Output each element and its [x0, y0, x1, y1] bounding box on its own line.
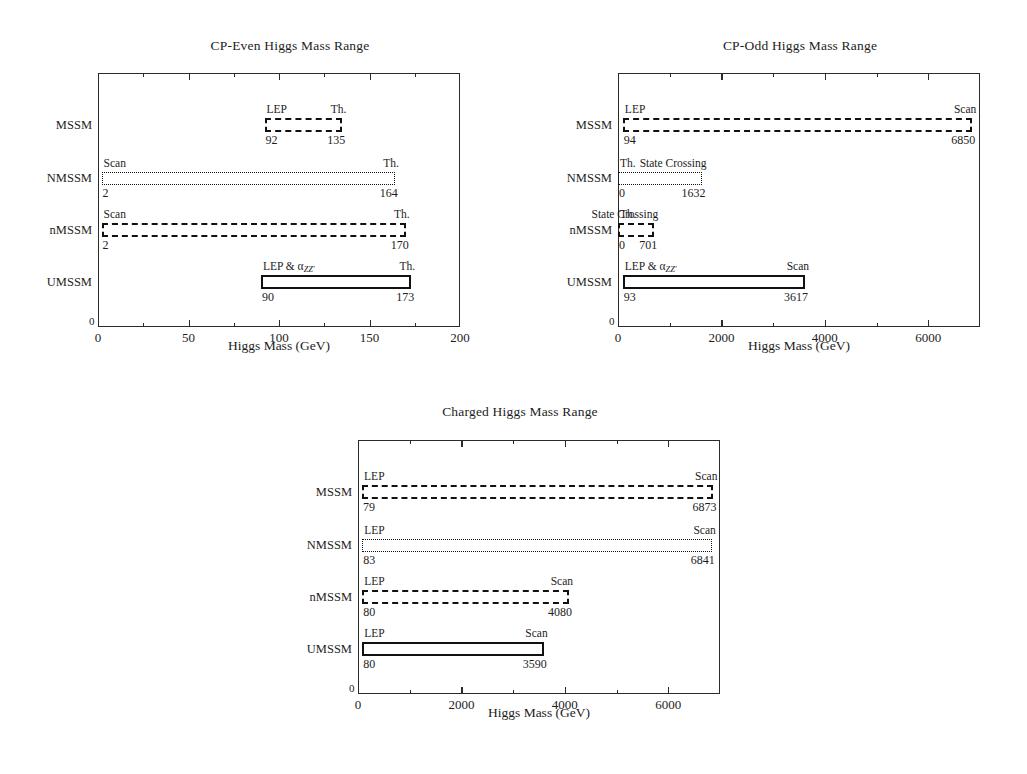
- x-tick-top: [324, 73, 325, 77]
- range-value-high-charged-NMSSM: 6841: [691, 553, 715, 568]
- range-bar-cp-odd-MSSM: [623, 118, 972, 132]
- range-note-right-cp-odd-nMSSM: State Crossing: [591, 208, 658, 220]
- range-value-high-cp-odd-UMSSM: 3617: [784, 290, 808, 305]
- row-label-cp-even-MSSM: MSSM: [12, 118, 92, 133]
- row-label-cp-odd-UMSSM: UMSSM: [532, 275, 612, 290]
- x-tick-bottom: [461, 687, 462, 694]
- x-axis-label-charged: Higgs Mass (GeV): [358, 705, 720, 721]
- x-tick-top: [668, 440, 669, 447]
- x-tick-bottom: [358, 687, 359, 694]
- range-bar-cp-odd-NMSSM: [618, 172, 702, 185]
- x-tick-bottom: [513, 690, 514, 694]
- row-label-cp-odd-MSSM: MSSM: [532, 118, 612, 133]
- x-tick-bottom: [98, 320, 99, 327]
- range-value-low-cp-odd-UMSSM: 93: [624, 290, 636, 305]
- x-tick-bottom: [617, 690, 618, 694]
- x-tick-bottom: [565, 687, 566, 694]
- range-value-high-cp-even-nMSSM: 170: [391, 238, 409, 253]
- range-note-right-cp-even-NMSSM: Th.: [383, 157, 399, 169]
- range-value-high-charged-MSSM: 6873: [692, 500, 716, 515]
- x-axis-label-cp-even: Higgs Mass (GeV): [98, 338, 460, 354]
- x-tick-bottom: [670, 323, 671, 327]
- range-note-right-cp-even-UMSSM: Th.: [399, 260, 415, 272]
- x-tick-top: [279, 73, 280, 80]
- range-note-left-charged-NMSSM: LEP: [364, 524, 384, 536]
- range-bar-cp-odd-nMSSM: [618, 223, 654, 237]
- range-note-left-cp-even-MSSM: LEP: [267, 103, 287, 115]
- range-note-right-charged-UMSSM: Scan: [525, 627, 547, 639]
- range-note-left-charged-MSSM: LEP: [364, 470, 384, 482]
- range-note-left-cp-odd-NMSSM: Th.: [620, 157, 636, 169]
- range-note-left-cp-even-NMSSM: Scan: [104, 157, 126, 169]
- row-label-cp-even-UMSSM: UMSSM: [12, 275, 92, 290]
- range-value-high-charged-nMSSM: 4080: [548, 605, 572, 620]
- range-note-left-cp-even-UMSSM: LEP & αZZ': [263, 260, 315, 274]
- alpha-zz-subscript: ZZ': [666, 265, 677, 274]
- range-bar-cp-even-MSSM: [265, 118, 343, 132]
- range-note-right-cp-odd-NMSSM: State Crossing: [640, 157, 707, 169]
- x-tick-bottom: [825, 320, 826, 327]
- row-label-charged-nMSSM: nMSSM: [272, 590, 352, 605]
- range-value-low-cp-odd-nMSSM: 0: [619, 238, 625, 253]
- x-tick-top: [928, 73, 929, 80]
- chart-title-cp-even: CP-Even Higgs Mass Range: [130, 38, 450, 54]
- range-bar-charged-UMSSM: [362, 642, 544, 656]
- range-value-high-charged-UMSSM: 3590: [523, 657, 547, 672]
- range-value-low-charged-nMSSM: 80: [363, 605, 375, 620]
- row-label-charged-NMSSM: NMSSM: [272, 538, 352, 553]
- row-label-cp-odd-NMSSM: NMSSM: [532, 171, 612, 186]
- range-bar-cp-even-nMSSM: [102, 223, 406, 237]
- x-tick-bottom: [773, 323, 774, 327]
- range-bar-charged-MSSM: [362, 485, 713, 499]
- range-value-low-cp-even-NMSSM: 2: [103, 186, 109, 201]
- range-note-left-cp-odd-MSSM: LEP: [625, 103, 645, 115]
- range-bar-cp-even-NMSSM: [102, 172, 395, 185]
- x-tick-top: [358, 440, 359, 447]
- row-label-cp-even-nMSSM: nMSSM: [12, 223, 92, 238]
- y-origin-label: 0: [89, 315, 95, 327]
- x-tick-bottom: [877, 323, 878, 327]
- figure-root: { "figure": { "axis_label": "Higgs Mass …: [0, 0, 1027, 774]
- range-value-high-cp-even-MSSM: 135: [327, 133, 345, 148]
- x-tick-bottom: [234, 323, 235, 327]
- range-value-low-cp-even-UMSSM: 90: [262, 290, 274, 305]
- range-value-high-cp-even-UMSSM: 173: [396, 290, 414, 305]
- x-tick-top: [189, 73, 190, 80]
- x-axis-label-cp-odd: Higgs Mass (GeV): [618, 338, 980, 354]
- x-tick-bottom: [618, 320, 619, 327]
- x-tick-bottom: [189, 320, 190, 327]
- x-tick-top: [721, 73, 722, 80]
- range-value-low-charged-MSSM: 79: [363, 500, 375, 515]
- x-tick-top: [565, 440, 566, 447]
- alpha-zz-subscript: ZZ': [304, 265, 315, 274]
- range-bar-charged-nMSSM: [362, 590, 569, 604]
- range-note-right-cp-odd-MSSM: Scan: [954, 103, 976, 115]
- x-tick-top: [234, 73, 235, 77]
- x-tick-bottom: [928, 320, 929, 327]
- range-bar-cp-odd-UMSSM: [623, 275, 805, 289]
- range-note-right-charged-MSSM: Scan: [695, 470, 717, 482]
- row-label-cp-even-NMSSM: NMSSM: [12, 171, 92, 186]
- chart-title-charged: Charged Higgs Mass Range: [360, 404, 680, 420]
- y-origin-label: 0: [609, 315, 615, 327]
- x-tick-top: [370, 73, 371, 80]
- range-note-left-cp-odd-UMSSM: LEP & αZZ': [625, 260, 677, 274]
- range-note-left-cp-even-nMSSM: Scan: [104, 208, 126, 220]
- range-value-low-charged-NMSSM: 83: [363, 553, 375, 568]
- x-tick-top: [410, 440, 411, 444]
- row-label-charged-MSSM: MSSM: [272, 485, 352, 500]
- x-tick-bottom: [324, 323, 325, 327]
- x-tick-top: [617, 440, 618, 444]
- range-value-high-cp-even-NMSSM: 164: [380, 186, 398, 201]
- range-note-right-cp-even-nMSSM: Th.: [394, 208, 410, 220]
- x-tick-top: [773, 73, 774, 77]
- x-tick-top: [143, 73, 144, 77]
- range-note-left-charged-nMSSM: LEP: [364, 575, 384, 587]
- range-value-low-cp-even-nMSSM: 2: [103, 238, 109, 253]
- x-tick-bottom: [415, 323, 416, 327]
- x-tick-top: [415, 73, 416, 77]
- range-value-low-cp-odd-MSSM: 94: [624, 133, 636, 148]
- x-tick-bottom: [410, 690, 411, 694]
- chart-title-cp-odd: CP-Odd Higgs Mass Range: [640, 38, 960, 54]
- range-note-right-cp-even-MSSM: Th.: [331, 103, 347, 115]
